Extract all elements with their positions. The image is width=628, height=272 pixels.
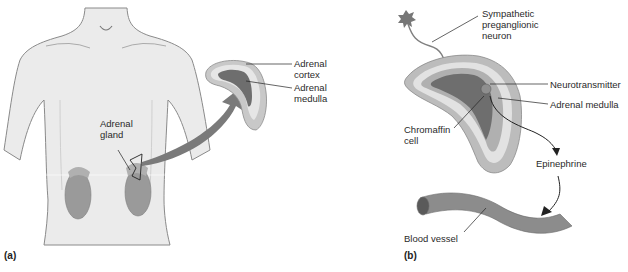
- left-kidney: [65, 171, 91, 219]
- adrenal-gland-closeup: [206, 60, 267, 130]
- adrenal-section: [405, 55, 522, 173]
- label-line: medulla: [294, 93, 327, 104]
- neuron-cell-body: [398, 10, 416, 28]
- label-sympathetic-neuron: Sympathetic preganglionic neuron: [482, 8, 539, 41]
- label-adrenal-medulla-a: Adrenal medulla: [294, 82, 327, 104]
- label-line: preganglionic: [482, 19, 539, 30]
- label-line: Sympathetic: [482, 8, 539, 19]
- label-epinephrine: Epinephrine: [536, 158, 587, 169]
- label-adrenal-cortex: Adrenal cortex: [294, 58, 327, 80]
- label-line: gland: [100, 129, 133, 140]
- label-line: neuron: [482, 30, 539, 41]
- panel-label-b: (b): [404, 250, 417, 261]
- panel-label-a: (a): [4, 250, 16, 261]
- chromaffin-cluster: [481, 84, 491, 94]
- label-line: Adrenal: [294, 58, 327, 69]
- label-adrenal-medulla-b: Adrenal medulla: [550, 99, 619, 110]
- label-adrenal-gland: Adrenal gland: [100, 118, 133, 140]
- label-neurotransmitter: Neurotransmitter: [550, 79, 621, 90]
- label-line: cortex: [294, 69, 327, 80]
- label-blood-vessel: Blood vessel: [404, 233, 458, 244]
- label-line: Adrenal: [100, 118, 133, 129]
- label-line: Chromaffin: [404, 124, 450, 135]
- label-line: Adrenal: [294, 82, 327, 93]
- label-line: cell: [404, 135, 450, 146]
- label-chromaffin-cell: Chromaffin cell: [404, 124, 450, 146]
